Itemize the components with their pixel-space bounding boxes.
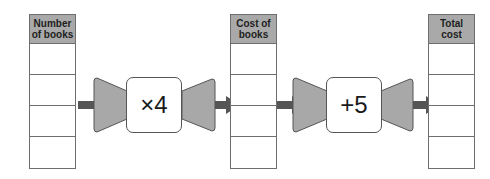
table-cell bbox=[30, 106, 75, 137]
table-number-of-books: Numberof books bbox=[29, 14, 76, 169]
table-total-cost: Totalcost bbox=[428, 14, 475, 169]
column-header: Totalcost bbox=[429, 15, 474, 44]
table-cell bbox=[231, 75, 276, 106]
table-cell bbox=[231, 44, 276, 75]
operation-multiply-box: ×4 bbox=[126, 77, 182, 133]
table-cost-of-books: Cost ofbooks bbox=[230, 14, 277, 169]
table-cell bbox=[429, 137, 474, 168]
table-cell bbox=[231, 137, 276, 168]
column-header: Cost ofbooks bbox=[231, 15, 276, 44]
table-cell bbox=[30, 137, 75, 168]
table-cell bbox=[30, 75, 75, 106]
operation-add-box: +5 bbox=[326, 77, 382, 133]
table-cell bbox=[30, 44, 75, 75]
operation-label: ×4 bbox=[140, 91, 167, 119]
operation-label: +5 bbox=[340, 91, 367, 119]
output-funnel-shape bbox=[182, 79, 215, 131]
table-cell bbox=[231, 106, 276, 137]
input-funnel-shape bbox=[293, 78, 327, 132]
column-header: Numberof books bbox=[30, 15, 75, 44]
table-cell bbox=[429, 75, 474, 106]
table-cell bbox=[429, 106, 474, 137]
input-funnel-shape bbox=[94, 78, 127, 132]
output-funnel-shape bbox=[381, 79, 413, 131]
table-cell bbox=[429, 44, 474, 75]
